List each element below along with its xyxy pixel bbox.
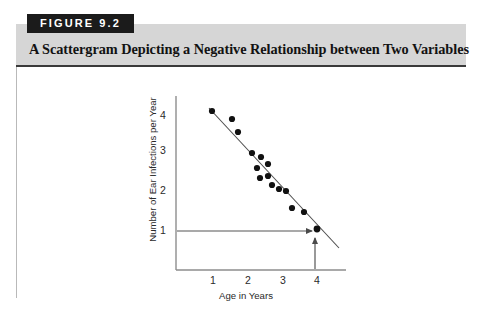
- y-tick-label-3: 3: [156, 144, 170, 156]
- y-tick-label-1: 1: [156, 224, 170, 236]
- data-point: [301, 209, 307, 215]
- data-point: [258, 154, 264, 160]
- figure-number-badge: FIGURE 9.2: [27, 14, 134, 33]
- data-point: [283, 188, 289, 194]
- figure-left-rule: [16, 30, 17, 298]
- x-tick-label-3: 3: [276, 274, 290, 286]
- data-point: [265, 173, 271, 179]
- data-point: [235, 129, 241, 135]
- figure-container: FIGURE 9.2 A Scattergram Depicting a Neg…: [0, 0, 480, 315]
- data-point-highlighted: [314, 226, 321, 233]
- data-point: [257, 175, 263, 181]
- data-point: [209, 108, 215, 114]
- data-point: [229, 116, 235, 122]
- y-axis-title: Number of Ear Infections per Year: [147, 90, 158, 250]
- data-point: [249, 150, 255, 156]
- title-underline-rule: [16, 65, 466, 67]
- scatter-plot: 4 3 2 1 1 2 3 4 Age in Years Number of E…: [130, 88, 360, 310]
- x-axis-title: Age in Years: [181, 290, 311, 301]
- data-point: [276, 186, 282, 192]
- data-point: [254, 165, 260, 171]
- x-tick-label-1: 1: [206, 274, 220, 286]
- y-tick-label-2: 2: [156, 184, 170, 196]
- figure-title: A Scattergram Depicting a Negative Relat…: [29, 41, 461, 58]
- data-point: [265, 161, 271, 167]
- axis-lines: [176, 96, 346, 270]
- data-point: [289, 205, 295, 211]
- x-tick-label-2: 2: [241, 274, 255, 286]
- reference-arrows: [177, 231, 315, 269]
- y-tick-label-4: 4: [156, 109, 170, 121]
- x-tick-label-4: 4: [310, 274, 324, 286]
- data-point: [269, 182, 275, 188]
